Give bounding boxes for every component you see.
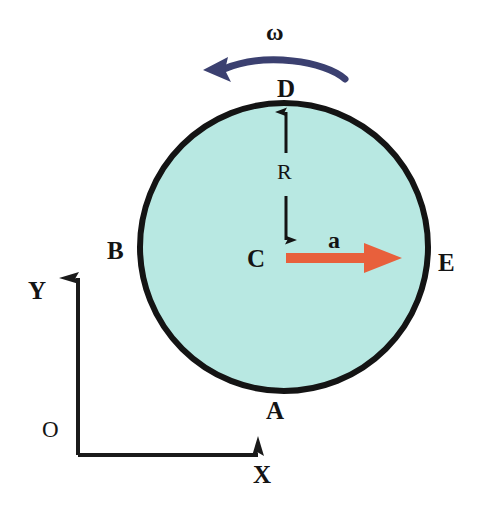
radius-label: R <box>277 161 292 183</box>
axis-label-y: Y <box>28 278 46 303</box>
point-label-e: E <box>438 250 455 275</box>
angular-velocity-arrow <box>203 57 345 82</box>
diagram-vector-layer <box>0 0 481 513</box>
axis-origin-label: O <box>42 418 59 441</box>
axis-label-x: X <box>253 462 271 487</box>
disk-shape <box>140 103 428 391</box>
angular-velocity-label: ω <box>266 20 284 44</box>
point-label-a: A <box>266 398 284 423</box>
point-label-b: B <box>107 238 124 263</box>
point-label-c: C <box>247 246 265 271</box>
acceleration-label: a <box>328 228 340 252</box>
point-label-d: D <box>277 76 295 101</box>
physics-diagram-canvas: ω D A B E C R a Y X O <box>0 0 481 513</box>
